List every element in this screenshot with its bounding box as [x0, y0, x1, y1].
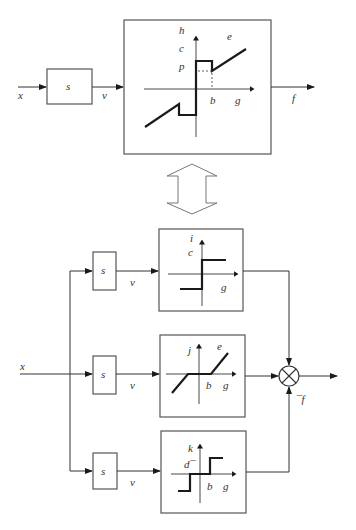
branch1-c-label: c	[188, 246, 193, 258]
branch3-relay-deadzone-block	[161, 431, 246, 513]
branch3-output-wire	[246, 387, 289, 472]
top-g-label: g	[235, 94, 241, 106]
top-s-label: s	[66, 80, 70, 92]
branch1-output-wire	[243, 271, 289, 365]
branch2-deadzone-block	[160, 335, 245, 417]
branch3-b-label: b	[207, 480, 213, 492]
block-diagram: x s v h c p e b g f x s v	[0, 0, 356, 530]
top-input-label: x	[17, 89, 23, 101]
branch2-e-label: e	[217, 340, 222, 352]
branch1-v-label: v	[130, 276, 135, 288]
top-output-label: f	[292, 92, 297, 104]
top-v-label: v	[102, 89, 107, 101]
bottom-input-label: x	[19, 360, 25, 372]
top-system: x s v h c p e b g f	[17, 20, 314, 154]
branch1-g-label: g	[221, 281, 227, 293]
branch2-b-label: b	[206, 379, 212, 391]
top-nonlinearity-block	[124, 20, 271, 154]
bottom-system: x s v i c g s v j e b g s v	[19, 229, 337, 513]
top-e-label: e	[227, 30, 232, 42]
branch3-v-label: v	[130, 476, 135, 488]
summing-junction-icon	[279, 366, 299, 386]
branch2-s-label: s	[101, 368, 105, 380]
branch2-v-label: v	[130, 379, 135, 391]
double-arrow-icon	[167, 164, 217, 214]
top-b-label: b	[210, 94, 216, 106]
top-p-label: p	[178, 60, 185, 72]
branch1-i-label: i	[190, 232, 193, 244]
branch3-g-label: g	[223, 480, 229, 492]
branch1-s-label: s	[101, 264, 105, 276]
bottom-output-label: ¯f	[296, 393, 307, 405]
branch3-s-label: s	[101, 465, 105, 477]
branch2-g-label: g	[223, 379, 229, 391]
branch3-d-label: d¯	[184, 458, 197, 470]
top-h-label: h	[179, 24, 185, 36]
top-c-label: c	[179, 42, 184, 54]
